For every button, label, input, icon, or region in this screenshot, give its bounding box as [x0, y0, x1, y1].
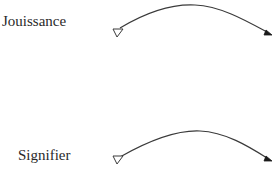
open-triangle-start-icon	[113, 156, 123, 164]
arrow-diagram	[0, 0, 275, 175]
arrow-signifier	[113, 131, 272, 164]
arrow-jouissance	[113, 5, 272, 37]
open-triangle-start-icon	[113, 29, 123, 37]
